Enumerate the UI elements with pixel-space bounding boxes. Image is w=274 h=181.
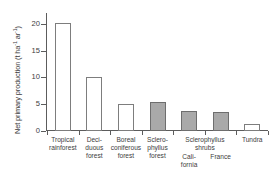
y-axis-tick-mark bbox=[41, 131, 46, 132]
x-axis-tick-mark bbox=[79, 131, 80, 135]
y-axis-tick-label: 0 bbox=[20, 127, 40, 135]
bar-6 bbox=[213, 112, 229, 131]
x-axis-group-label: Sclerophyllusshrubs bbox=[173, 136, 236, 152]
x-axis-tick-mark bbox=[205, 131, 206, 135]
bar-1 bbox=[55, 23, 71, 131]
x-axis-category-labels: TropicalrainforestDeci-duousforestBoreal… bbox=[47, 136, 268, 181]
y-axis-title-sup-2: -1 bbox=[12, 29, 18, 33]
y-axis-tick-label: 15 bbox=[20, 47, 40, 55]
x-axis-tick-mark bbox=[268, 131, 269, 135]
x-axis-tick-mark bbox=[236, 131, 237, 135]
y-axis-tick-mark bbox=[41, 51, 46, 52]
y-axis-title-sup-1: -1 bbox=[12, 41, 18, 45]
label-line: Sclero- bbox=[138, 136, 178, 144]
x-axis-tick-mark bbox=[110, 131, 111, 135]
x-axis-tick-mark bbox=[142, 131, 143, 135]
y-axis-tick-mark bbox=[41, 104, 46, 105]
x-axis-category-label-6: France bbox=[201, 153, 241, 161]
plot-area bbox=[47, 13, 268, 131]
y-axis-tick-labels: 20151050 bbox=[19, 0, 40, 140]
y-axis-tick-mark bbox=[41, 77, 46, 78]
x-axis-category-label-7: Tundra bbox=[232, 136, 272, 144]
group-label-line: shrubs bbox=[173, 144, 236, 152]
x-axis-tick-mark bbox=[47, 131, 48, 135]
label-line: Tundra bbox=[232, 136, 272, 144]
bar-7 bbox=[244, 124, 260, 132]
bar-2 bbox=[86, 77, 102, 131]
y-axis-tick-mark bbox=[41, 24, 46, 25]
y-axis-tick-label: 5 bbox=[20, 100, 40, 108]
chart-figure: Net primary production (t ha-1 ar-1) 201… bbox=[0, 0, 274, 181]
group-label-line: Sclerophyllus bbox=[173, 136, 236, 144]
label-line: France bbox=[201, 153, 241, 161]
label-line: fornia bbox=[169, 161, 209, 169]
bar-4 bbox=[150, 102, 166, 132]
y-axis-tick-label: 20 bbox=[20, 20, 40, 28]
y-axis-tick-label: 10 bbox=[20, 73, 40, 81]
x-axis-tick-mark bbox=[173, 131, 174, 135]
bar-3 bbox=[118, 104, 134, 131]
y-axis-title-container: Net primary production (t ha-1 ar-1) bbox=[0, 0, 16, 140]
label-line: phyllus bbox=[138, 144, 178, 152]
bar-5 bbox=[181, 111, 197, 131]
